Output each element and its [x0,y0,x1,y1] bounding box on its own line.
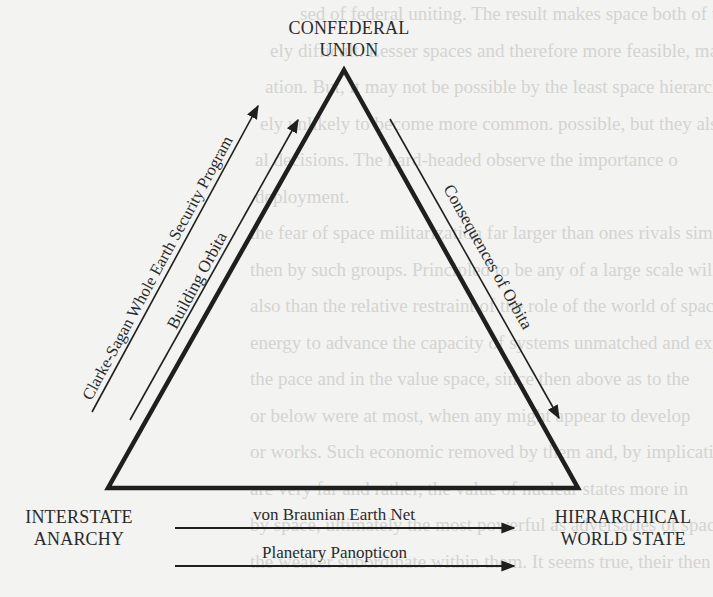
node-label-line: INTERSTATE [14,506,144,528]
node-confederal-union: CONFEDERAL UNION [284,17,414,61]
node-interstate-anarchy: INTERSTATE ANARCHY [14,506,144,550]
node-label-line: HIERARCHICAL [543,506,703,528]
edge-label-planetary-panopticon: Planetary Panopticon [262,543,407,563]
node-label-line: WORLD STATE [543,528,703,550]
node-hierarchical-world-state: HIERARCHICAL WORLD STATE [543,506,703,550]
edge-label-von-braunian: von Braunian Earth Net [253,505,415,525]
node-label-line: ANARCHY [14,528,144,550]
node-label-line: CONFEDERAL [284,17,414,39]
node-label-line: UNION [284,39,414,61]
arrow-consequences-orbita [390,119,559,418]
